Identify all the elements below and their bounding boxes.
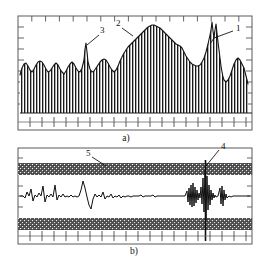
noise-band-upper	[18, 163, 252, 175]
figure-svg: 1 2 3 a)	[0, 0, 272, 266]
callout-2-label: 2	[116, 18, 121, 28]
panel-b-caption: b)	[130, 246, 138, 257]
panel-a-caption: a)	[122, 133, 129, 144]
callout-1-label: 1	[236, 23, 241, 33]
callout-3-label: 3	[100, 25, 105, 35]
noise-band-lower	[18, 218, 252, 230]
figure-container: 1 2 3 a)	[0, 0, 272, 266]
callout-5-label: 5	[86, 148, 91, 158]
callout-4-label: 4	[221, 141, 226, 151]
